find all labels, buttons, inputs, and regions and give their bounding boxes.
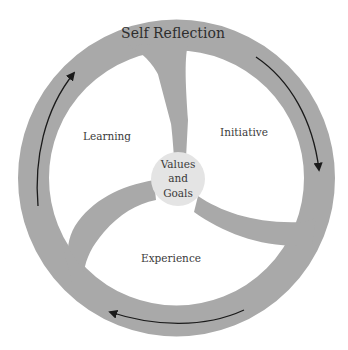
self-reflection-cycle-diagram: Self Reflection Learning Initiative Expe… [0,0,348,350]
segment-label-learning: Learning [83,130,131,142]
diagram-canvas: Self Reflection Learning Initiative Expe… [0,0,348,350]
center-label-line-1: Values [160,158,196,170]
outer-ring-label: Self Reflection [121,25,225,41]
blade-top [128,44,188,158]
center-label-line-3: Goals [163,187,193,199]
blade-left [60,180,156,282]
segment-label-initiative: Initiative [220,126,268,138]
segment-label-experience: Experience [141,252,201,264]
center-label-line-2: and [168,172,188,184]
